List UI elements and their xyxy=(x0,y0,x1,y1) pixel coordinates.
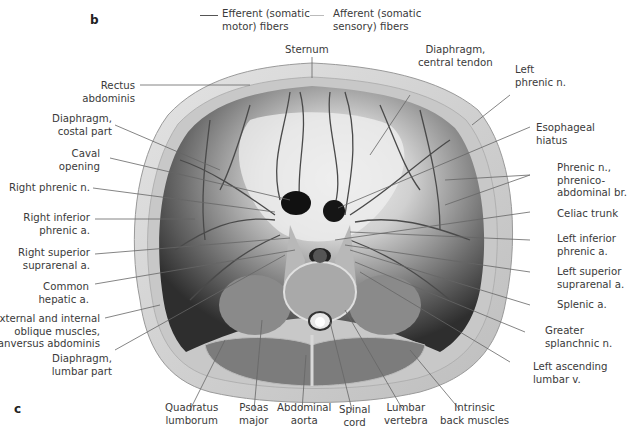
label-oblique-muscles: External and internal oblique muscles, t… xyxy=(0,313,100,351)
label-left-ascending-lumbar-vein: Left ascending lumbar v. xyxy=(533,361,608,386)
label-esophageal-hiatus: Esophageal hiatus xyxy=(536,122,595,147)
spinal-cord xyxy=(315,317,325,327)
legend-efferent: Efferent (somatic motor) fibers xyxy=(222,8,310,33)
label-sternum: Sternum xyxy=(285,44,329,57)
label-quadratus-lumborum: Quadratus lumborum xyxy=(165,402,218,427)
label-common-hepatic-artery: Common hepatic a. xyxy=(38,281,89,306)
efferent-line-swatch xyxy=(200,15,218,16)
abdominal-aorta xyxy=(313,249,327,263)
caval-opening xyxy=(281,191,311,215)
label-diaphragm-central-tendon: Diaphragm, central tendon xyxy=(418,44,493,69)
label-left-phrenic-nerve: Left phrenic n. xyxy=(515,64,566,89)
label-greater-splanchnic-nerve: Greater splanchnic n. xyxy=(545,325,612,350)
label-intrinsic-back-muscles: Intrinsic back muscles xyxy=(440,402,509,427)
label-right-phrenic-nerve: Right phrenic n. xyxy=(9,182,90,195)
label-right-superior-suprarenal-artery: Right superior suprarenal a. xyxy=(18,247,90,272)
label-abdominal-aorta: Abdominal aorta xyxy=(277,402,331,427)
label-diaphragm-costal-part: Diaphragm, costal part xyxy=(52,113,112,138)
label-phrenic-nerve-phrenicoabdominal-branch: Phrenic n., phrenico- abdominal br. xyxy=(557,162,627,200)
label-caval-opening: Caval opening xyxy=(59,148,100,173)
label-celiac-trunk: Celiac trunk xyxy=(557,208,618,221)
panel-label-c: c xyxy=(14,402,21,416)
label-right-inferior-phrenic-artery: Right inferior phrenic a. xyxy=(23,212,90,237)
label-left-inferior-phrenic-artery: Left inferior phrenic a. xyxy=(557,233,616,258)
label-psoas-major: Psoas major xyxy=(239,402,268,427)
label-diaphragm-lumbar-part: Diaphragm, lumbar part xyxy=(52,353,112,378)
label-splenic-artery: Splenic a. xyxy=(557,299,607,312)
afferent-line-swatch xyxy=(310,15,324,16)
label-spinal-cord: Spinal cord xyxy=(339,404,370,429)
esophageal-hiatus xyxy=(323,200,345,222)
panel-label-b: b xyxy=(90,13,99,27)
legend-afferent: Afferent (somatic sensory) fibers xyxy=(333,8,421,33)
label-left-superior-suprarenal-artery: Left superior suprarenal a. xyxy=(557,266,624,291)
label-rectus-abdominis: Rectus abdominis xyxy=(82,80,135,105)
label-lumbar-vertebra: Lumbar vertebra xyxy=(384,402,428,427)
